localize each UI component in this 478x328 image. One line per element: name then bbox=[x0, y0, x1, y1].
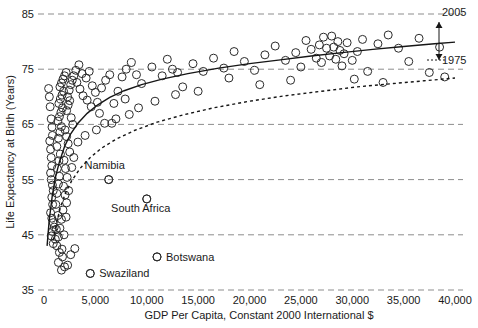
data-point bbox=[57, 266, 65, 274]
x-tick-label-35000: 35,000 bbox=[387, 294, 421, 306]
label-south-africa: South Africa bbox=[111, 202, 171, 214]
data-point bbox=[62, 213, 70, 221]
data-point bbox=[323, 44, 331, 52]
data-point bbox=[415, 34, 423, 42]
data-point bbox=[194, 87, 202, 95]
data-point bbox=[50, 223, 58, 231]
data-point bbox=[106, 71, 114, 79]
data-point bbox=[210, 54, 218, 62]
data-point bbox=[374, 40, 382, 48]
data-point-botswana bbox=[153, 253, 161, 261]
data-point bbox=[110, 99, 118, 107]
data-point bbox=[148, 63, 156, 71]
data-point bbox=[81, 131, 89, 139]
data-point bbox=[343, 39, 351, 47]
data-point bbox=[292, 49, 300, 57]
data-point bbox=[45, 93, 53, 101]
point-annotations: NamibiaSouth AfricaBotswanaSwaziland bbox=[85, 159, 216, 280]
y-axis-title: Life Expectancy at Birth (Years) bbox=[4, 75, 16, 229]
data-point bbox=[230, 48, 238, 56]
data-point bbox=[151, 97, 159, 105]
data-point bbox=[172, 91, 180, 99]
data-point bbox=[338, 62, 346, 70]
x-tick-label-5000: 5,000 bbox=[82, 294, 110, 306]
y-tick-label-75: 75 bbox=[22, 63, 34, 75]
chart-canvas: NamibiaSouth AfricaBotswanaSwaziland 200… bbox=[0, 0, 478, 328]
data-point bbox=[118, 73, 126, 81]
data-point bbox=[70, 154, 78, 162]
data-point bbox=[132, 71, 140, 79]
data-point bbox=[271, 42, 279, 50]
y-tick-label-85: 85 bbox=[22, 8, 34, 20]
data-point bbox=[125, 110, 133, 118]
y-tick-label-35: 35 bbox=[22, 284, 34, 296]
data-point bbox=[256, 81, 264, 89]
label-botswana: Botswana bbox=[166, 251, 215, 263]
data-point bbox=[92, 126, 100, 134]
data-point-swaziland bbox=[86, 269, 94, 277]
data-point bbox=[95, 109, 103, 117]
data-point bbox=[60, 182, 68, 190]
x-axis-title: GDP Per Capita, Constant 2000 Internatio… bbox=[144, 309, 373, 321]
data-point bbox=[66, 148, 74, 156]
data-point bbox=[45, 85, 53, 93]
data-point bbox=[281, 56, 289, 64]
scatter-chart-figure: NamibiaSouth AfricaBotswanaSwaziland 200… bbox=[0, 0, 478, 328]
data-point bbox=[364, 67, 372, 75]
data-point bbox=[297, 63, 305, 71]
data-point bbox=[63, 173, 71, 181]
series-callouts: 20051975 bbox=[427, 6, 466, 66]
label-2005: 2005 bbox=[442, 6, 466, 18]
data-point bbox=[287, 76, 295, 84]
label-swaziland: Swaziland bbox=[99, 267, 149, 279]
data-point bbox=[71, 245, 79, 253]
data-point bbox=[350, 75, 358, 83]
x-tick-label-40000: 40,000 bbox=[438, 294, 472, 306]
data-point bbox=[163, 55, 171, 63]
y-tick-label-55: 55 bbox=[22, 174, 34, 186]
data-point bbox=[302, 36, 310, 44]
data-point bbox=[334, 38, 342, 46]
data-point bbox=[384, 31, 392, 39]
label-namibia: Namibia bbox=[85, 159, 126, 171]
y-tick-label-45: 45 bbox=[22, 229, 34, 241]
data-point bbox=[54, 180, 62, 188]
data-point bbox=[85, 67, 93, 75]
data-point bbox=[47, 154, 55, 162]
data-point bbox=[135, 104, 143, 112]
data-point bbox=[330, 43, 338, 51]
data-point bbox=[189, 60, 197, 68]
data-points bbox=[45, 31, 449, 277]
data-point bbox=[98, 84, 106, 92]
gap-arrow-head-up bbox=[436, 22, 443, 28]
data-point bbox=[179, 83, 187, 91]
data-point bbox=[348, 56, 356, 64]
x-tick-label-20000: 20,000 bbox=[233, 294, 267, 306]
data-point bbox=[379, 78, 387, 86]
x-tick-label-30000: 30,000 bbox=[335, 294, 369, 306]
data-point bbox=[394, 44, 402, 52]
x-tick-label-10000: 10,000 bbox=[130, 294, 164, 306]
y-tick-label-65: 65 bbox=[22, 118, 34, 130]
data-point bbox=[74, 138, 82, 146]
data-point bbox=[46, 103, 54, 111]
label-1975: 1975 bbox=[442, 54, 466, 66]
data-point bbox=[261, 51, 269, 59]
data-point bbox=[307, 45, 315, 53]
data-point bbox=[359, 35, 367, 43]
data-point bbox=[225, 74, 233, 82]
data-point bbox=[68, 76, 76, 84]
y-axis-ticks: 354555657585 bbox=[22, 8, 34, 296]
data-point bbox=[405, 57, 413, 65]
gridlines bbox=[38, 14, 463, 290]
data-point bbox=[332, 55, 340, 63]
data-point bbox=[127, 59, 135, 67]
data-point bbox=[55, 113, 63, 121]
data-point bbox=[57, 108, 65, 116]
data-point bbox=[102, 76, 110, 84]
data-point bbox=[317, 59, 325, 67]
x-tick-label-0: 0 bbox=[41, 294, 47, 306]
x-tick-label-25000: 25,000 bbox=[284, 294, 318, 306]
data-point bbox=[319, 33, 327, 41]
x-tick-label-15000: 15,000 bbox=[181, 294, 215, 306]
